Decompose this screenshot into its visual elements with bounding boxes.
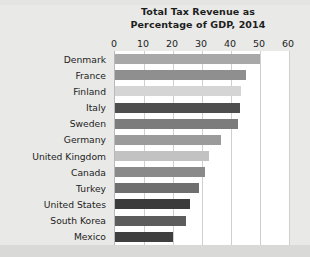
- category-label-france: France: [75, 70, 106, 81]
- bar-row: [115, 148, 289, 164]
- category-row: Canada: [0, 164, 110, 180]
- category-row: Mexico: [0, 229, 110, 245]
- x-tick-label-60: 60: [276, 38, 300, 49]
- chart-title: Total Tax Revenue as Percentage of GDP, …: [100, 6, 296, 31]
- gridline-60: [289, 51, 290, 245]
- bar-germany: [115, 135, 221, 145]
- x-tick-label-20: 20: [160, 38, 184, 49]
- bar-finland: [115, 86, 241, 96]
- bar-denmark: [115, 54, 260, 64]
- bars-layer: [115, 51, 289, 245]
- bar-sweden: [115, 119, 238, 129]
- bar-united-states: [115, 199, 190, 209]
- category-label-italy: Italy: [86, 102, 106, 113]
- bar-row: [115, 51, 289, 67]
- bar-row: [115, 180, 289, 196]
- category-row: South Korea: [0, 213, 110, 229]
- category-label-canada: Canada: [71, 167, 106, 178]
- category-row: Finland: [0, 83, 110, 99]
- x-tick-label-30: 30: [189, 38, 213, 49]
- bar-turkey: [115, 183, 199, 193]
- category-row: Sweden: [0, 116, 110, 132]
- x-tick-label-40: 40: [218, 38, 242, 49]
- bar-south-korea: [115, 216, 186, 226]
- category-row: United States: [0, 196, 110, 212]
- category-row: Germany: [0, 132, 110, 148]
- category-label-south-korea: South Korea: [50, 215, 106, 226]
- bar-row: [115, 164, 289, 180]
- category-label-united-states: United States: [44, 199, 106, 210]
- category-row: Turkey: [0, 180, 110, 196]
- bar-row: [115, 99, 289, 115]
- category-label-turkey: Turkey: [76, 183, 106, 194]
- plot-area: [114, 51, 289, 245]
- bottom-background-band: [0, 245, 310, 257]
- x-tick-label-50: 50: [247, 38, 271, 49]
- top-background-band: [0, 0, 310, 5]
- bar-canada: [115, 167, 205, 177]
- category-label-united-kingdom: United Kingdom: [32, 151, 106, 162]
- category-row: Denmark: [0, 51, 110, 67]
- y-axis-category-labels: DenmarkFranceFinlandItalySwedenGermanyUn…: [0, 51, 110, 245]
- category-row: United Kingdom: [0, 148, 110, 164]
- bar-row: [115, 229, 289, 245]
- bar-italy: [115, 103, 240, 113]
- category-row: Italy: [0, 99, 110, 115]
- chart-title-line-2: Percentage of GDP, 2014: [100, 19, 296, 32]
- x-tick-label-10: 10: [131, 38, 155, 49]
- x-axis-tick-labels: 0102030405060: [0, 38, 310, 51]
- chart-title-line-1: Total Tax Revenue as: [100, 6, 296, 19]
- category-label-finland: Finland: [73, 86, 106, 97]
- bar-united-kingdom: [115, 151, 209, 161]
- bar-row: [115, 196, 289, 212]
- bar-mexico: [115, 232, 173, 242]
- tax-revenue-bar-chart: Total Tax Revenue as Percentage of GDP, …: [0, 0, 310, 257]
- category-label-sweden: Sweden: [70, 118, 106, 129]
- bar-row: [115, 116, 289, 132]
- bar-france: [115, 70, 246, 80]
- bar-row: [115, 83, 289, 99]
- x-tick-label-0: 0: [102, 38, 126, 49]
- category-label-germany: Germany: [64, 134, 106, 145]
- category-label-mexico: Mexico: [74, 231, 106, 242]
- category-label-denmark: Denmark: [64, 54, 106, 65]
- bar-row: [115, 213, 289, 229]
- bar-row: [115, 67, 289, 83]
- category-row: France: [0, 67, 110, 83]
- bar-row: [115, 132, 289, 148]
